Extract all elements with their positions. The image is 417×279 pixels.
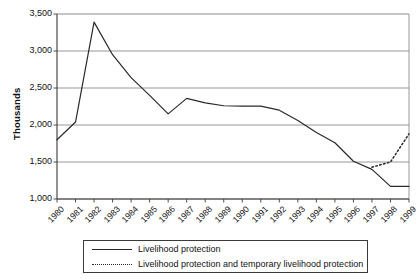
y-axis-title: Thousands (11, 88, 22, 140)
legend-label-0: Livelihood protection (138, 244, 221, 254)
legend-item-0: Livelihood protection (84, 241, 367, 256)
legend: Livelihood protection Livelihood protect… (83, 240, 368, 273)
legend-key-dotted-icon (92, 259, 132, 269)
y-axis-tick-label: 3,000 (12, 45, 52, 55)
legend-item-1: Livelihood protection and temporary live… (84, 256, 367, 271)
legend-key-solid-icon (92, 244, 132, 254)
legend-label-1: Livelihood protection and temporary live… (138, 259, 363, 269)
y-axis-tick-label: 2,500 (12, 82, 52, 92)
y-axis-tick-label: 1,500 (12, 156, 52, 166)
y-axis-tick-label: 1,000 (12, 193, 52, 203)
x-axis-tick-marks (54, 14, 410, 203)
plot-area (0, 0, 417, 279)
line-chart: Thousands 3,5003,0002,5002,0001,5001,000… (0, 0, 417, 279)
y-axis-tick-label: 2,000 (12, 119, 52, 129)
y-axis-tick-label: 3,500 (12, 8, 52, 18)
